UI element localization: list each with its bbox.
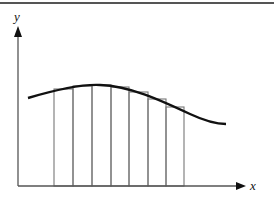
x-axis-label: x	[249, 178, 256, 193]
y-axis-label: y	[12, 9, 20, 24]
riemann-rectangle-3	[92, 85, 111, 186]
riemann-rectangle-5	[129, 92, 148, 186]
riemann-rectangle-6	[148, 99, 166, 186]
function-curve	[28, 85, 226, 124]
x-axis-arrow-icon	[236, 182, 246, 190]
riemann-rectangle-7	[166, 107, 184, 186]
rectangles-group	[54, 85, 184, 186]
riemann-rectangle-1	[54, 89, 73, 186]
riemann-sum-diagram: x y	[0, 0, 274, 203]
riemann-rectangle-4	[111, 87, 129, 186]
y-axis-arrow-icon	[14, 26, 22, 37]
riemann-rectangle-2	[73, 86, 92, 186]
